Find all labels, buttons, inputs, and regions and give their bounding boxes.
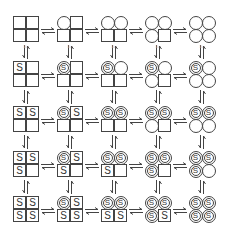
square-subunit-bound: S bbox=[13, 209, 26, 222]
ligand-s-label: S bbox=[160, 198, 170, 208]
ligand-s-label: S bbox=[60, 211, 67, 221]
ligand-s-label: S bbox=[104, 211, 111, 221]
ligand-s-label: S bbox=[147, 153, 157, 163]
square-subunit bbox=[101, 29, 114, 42]
circle-subunit bbox=[145, 74, 159, 88]
ligand-s-label: S bbox=[204, 198, 214, 208]
ligand-s-label: S bbox=[117, 211, 124, 221]
equilibrium-arrow-horizontal bbox=[84, 162, 100, 170]
circle-subunit-bound: S bbox=[114, 151, 128, 165]
ligand-s-label: S bbox=[73, 198, 80, 208]
equilibrium-arrow-horizontal bbox=[40, 117, 56, 125]
square-subunit bbox=[26, 119, 39, 132]
square-subunit bbox=[70, 119, 83, 132]
complex-r1-c2: S bbox=[101, 61, 127, 87]
complex-r2-c4: SS bbox=[189, 106, 215, 132]
equilibrium-arrow-horizontal bbox=[128, 162, 144, 170]
circle-subunit-bound: S bbox=[189, 164, 203, 178]
square-subunit-bound: S bbox=[114, 209, 127, 222]
ligand-s-label: S bbox=[29, 211, 36, 221]
ligand-s-label: S bbox=[73, 108, 80, 118]
ligand-s-label: S bbox=[160, 153, 170, 163]
square-subunit bbox=[13, 16, 26, 29]
complex-r1-c3: S bbox=[145, 61, 171, 87]
equilibrium-arrow-horizontal bbox=[128, 27, 144, 35]
square-subunit bbox=[57, 119, 70, 132]
square-subunit bbox=[114, 29, 127, 42]
square-subunit-bound: S bbox=[13, 106, 26, 119]
equilibrium-arrow-horizontal bbox=[40, 27, 56, 35]
square-subunit-bound: S bbox=[13, 164, 26, 177]
square-subunit bbox=[114, 119, 127, 132]
ligand-s-label: S bbox=[116, 198, 126, 208]
ligand-s-label: S bbox=[16, 211, 23, 221]
equilibrium-arrow-horizontal bbox=[128, 72, 144, 80]
circle-subunit-bound: S bbox=[101, 61, 115, 75]
equilibrium-arrow-horizontal bbox=[128, 207, 144, 215]
square-subunit-bound: S bbox=[101, 209, 114, 222]
circle-subunit bbox=[189, 119, 203, 133]
square-subunit bbox=[70, 16, 83, 29]
ligand-s-label: S bbox=[191, 108, 201, 118]
circle-subunit-bound: S bbox=[189, 106, 203, 120]
square-subunit-bound: S bbox=[158, 209, 171, 222]
square-subunit-bound: S bbox=[57, 164, 70, 177]
square-subunit bbox=[70, 29, 83, 42]
column-label: 1k bbox=[199, 44, 203, 49]
complex-r3-c0: SSS bbox=[13, 151, 39, 177]
circle-subunit bbox=[202, 119, 216, 133]
ligand-s-label: S bbox=[191, 211, 201, 221]
circle-subunit-bound: S bbox=[158, 196, 172, 210]
square-subunit bbox=[26, 74, 39, 87]
circle-subunit-bound: S bbox=[57, 61, 71, 75]
circle-subunit-bound: S bbox=[57, 106, 71, 120]
ligand-s-label: S bbox=[147, 166, 157, 176]
ligand-s-label: S bbox=[104, 166, 111, 176]
circle-subunit-bound: S bbox=[101, 106, 115, 120]
ligand-s-label: S bbox=[73, 211, 80, 221]
ligand-s-label: S bbox=[147, 211, 157, 221]
square-subunit-bound: S bbox=[26, 106, 39, 119]
ligand-s-label: S bbox=[59, 198, 69, 208]
square-subunit-bound: S bbox=[26, 209, 39, 222]
complex-r0-c0 bbox=[13, 16, 39, 42]
square-subunit bbox=[70, 74, 83, 87]
equilibrium-arrow-vertical bbox=[198, 89, 206, 105]
ligand-s-label: S bbox=[204, 153, 214, 163]
square-subunit bbox=[158, 74, 171, 87]
circle-subunit-bound: S bbox=[189, 61, 203, 75]
complex-r2-c2: SS bbox=[101, 106, 127, 132]
circle-subunit-bound: S bbox=[145, 164, 159, 178]
equilibrium-arrow-horizontal bbox=[172, 207, 188, 215]
ligand-s-label: S bbox=[161, 211, 168, 221]
square-subunit bbox=[114, 164, 127, 177]
equilibrium-arrow-vertical bbox=[66, 89, 74, 105]
circle-subunit-bound: S bbox=[202, 196, 216, 210]
ligand-s-label: S bbox=[204, 108, 214, 118]
circle-subunit bbox=[57, 16, 71, 30]
ligand-s-label: S bbox=[191, 198, 201, 208]
complex-r4-c4: SSSS bbox=[189, 196, 215, 222]
equilibrium-arrow-horizontal bbox=[84, 207, 100, 215]
square-subunit bbox=[26, 61, 39, 74]
equilibrium-arrow-vertical bbox=[198, 134, 206, 150]
circle-subunit-bound: S bbox=[101, 151, 115, 165]
circle-subunit bbox=[202, 164, 216, 178]
circle-subunit bbox=[189, 29, 203, 43]
square-subunit-bound: S bbox=[13, 151, 26, 164]
equilibrium-arrow-vertical bbox=[154, 134, 162, 150]
square-subunit bbox=[13, 119, 26, 132]
ligand-s-label: S bbox=[103, 63, 113, 73]
circle-subunit-bound: S bbox=[202, 106, 216, 120]
ligand-s-label: S bbox=[16, 166, 23, 176]
ligand-s-label: S bbox=[59, 108, 69, 118]
square-subunit bbox=[158, 164, 171, 177]
circle-subunit bbox=[189, 16, 203, 30]
column-label: 1k bbox=[111, 44, 115, 49]
ligand-s-label: S bbox=[59, 153, 69, 163]
circle-subunit-bound: S bbox=[114, 196, 128, 210]
equilibrium-arrow-vertical bbox=[66, 179, 74, 195]
square-subunit bbox=[26, 164, 39, 177]
column-label: 1k bbox=[23, 44, 27, 49]
circle-subunit bbox=[202, 61, 216, 75]
